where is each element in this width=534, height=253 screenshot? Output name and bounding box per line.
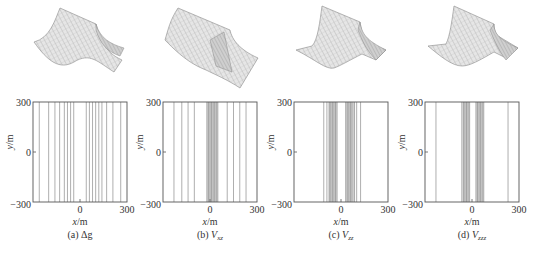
- y-tick-label: 300: [16, 97, 31, 108]
- x-tick-label: 0: [208, 204, 213, 215]
- axes-frame: [425, 102, 519, 202]
- y-tick-label: 300: [408, 97, 423, 108]
- y-tick-label: 0: [418, 147, 423, 158]
- y-tick-label: 0: [287, 147, 292, 158]
- surface-plot-d: [428, 6, 518, 66]
- x-tick-label: 300: [512, 204, 527, 215]
- x-tick-label: 300: [120, 204, 135, 215]
- x-axis-label: x/m: [332, 216, 348, 227]
- y-axis-label: y/m: [265, 134, 276, 150]
- surface-plot-b: [165, 8, 258, 88]
- x-tick-label: 300: [250, 204, 265, 215]
- y-tick-label: −300: [271, 199, 292, 210]
- figure: 3000−3000300y/mx/m(a) Δg3000−3000300y/mx…: [0, 0, 534, 253]
- contour-panel-a: 3000−3000300y/mx/m(a) Δg: [4, 97, 135, 241]
- y-tick-label: −300: [140, 199, 161, 210]
- panel-caption-a: (a) Δg: [67, 229, 92, 241]
- x-axis-label: x/m: [463, 216, 479, 227]
- x-tick-label: 0: [339, 204, 344, 215]
- panel-caption-d: (d) Vzzz: [458, 229, 487, 242]
- y-tick-label: 0: [156, 147, 161, 158]
- y-axis-label: y/m: [4, 134, 15, 150]
- axes-frame: [294, 102, 388, 202]
- surface-plot-a: [34, 8, 124, 72]
- x-tick-label: 0: [78, 204, 83, 215]
- dense-contour-band: [476, 102, 484, 202]
- y-tick-label: 300: [146, 97, 161, 108]
- x-tick-label: 0: [470, 204, 475, 215]
- y-axis-label: y/m: [134, 134, 145, 150]
- y-tick-label: −300: [10, 199, 31, 210]
- y-tick-label: 0: [26, 147, 31, 158]
- x-tick-label: 300: [381, 204, 396, 215]
- panel-caption-c: (c) Vzz: [328, 229, 353, 242]
- x-axis-label: x/m: [71, 216, 87, 227]
- y-axis-label: y/m: [396, 134, 407, 150]
- contour-panel-c: 3000−3000300y/mx/m(c) Vzz: [265, 97, 396, 242]
- y-tick-label: −300: [402, 199, 423, 210]
- surface-plot-c: [296, 6, 386, 68]
- x-axis-label: x/m: [201, 216, 217, 227]
- y-tick-label: 300: [277, 97, 292, 108]
- contour-panel-b: 3000−3000300y/mx/m(b) Vxz: [134, 97, 265, 242]
- panel-caption-b: (b) Vxz: [197, 229, 223, 242]
- contour-panel-d: 3000−3000300y/mx/m(d) Vzzz: [396, 97, 527, 242]
